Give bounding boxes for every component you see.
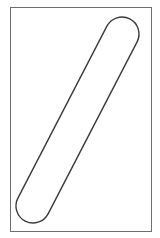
figure-svg	[0, 0, 160, 238]
drawing-canvas	[0, 0, 160, 238]
